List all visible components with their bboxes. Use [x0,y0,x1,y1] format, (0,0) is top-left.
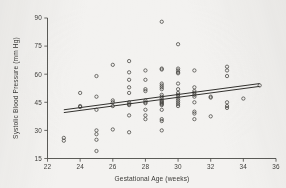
y-tick-label: 75 [34,42,42,49]
data-point [127,78,130,81]
x-tick-label: 22 [44,163,52,170]
data-point [111,63,114,66]
data-point [176,43,179,46]
figure-container: Systolic Blood Pressure (mm Hg) Gestatio… [0,0,286,188]
data-point [95,74,98,77]
data-point [193,69,196,72]
x-tick-label: 26 [109,163,117,170]
data-point [176,82,179,85]
y-axis-title: Systolic Blood Pressure (mm Hg) [12,37,20,139]
x-tick-label: 28 [142,163,150,170]
data-point [160,20,163,23]
y-tick-label: 30 [34,127,42,134]
x-tick-label: 30 [174,163,182,170]
data-point [95,149,98,152]
data-point [127,91,130,94]
data-point [160,108,163,111]
data-point [176,88,179,91]
y-tick-label: 90 [34,14,42,21]
data-point [95,132,98,135]
data-point [242,97,245,100]
y-tick-label: 15 [34,155,42,162]
axes [48,18,277,159]
data-point [225,101,228,104]
data-point [95,138,98,141]
data-point [193,101,196,104]
y-tick-label: 45 [34,99,42,106]
y-tick-group: 153045607590 [34,14,47,162]
x-tick-label: 36 [272,163,280,170]
x-tick-label: 32 [207,163,215,170]
data-point-group [62,20,261,153]
data-point [193,118,196,121]
data-point [225,69,228,72]
x-axis-title: Gestational Age (weeks) [115,175,190,183]
data-point [127,114,130,117]
data-point [127,131,130,134]
data-point [144,114,147,117]
data-point [78,91,81,94]
data-point [144,69,147,72]
data-point [95,129,98,132]
y-tick-label: 60 [34,71,42,78]
lower-fit [64,86,260,112]
x-tick-label: 34 [240,163,248,170]
x-tick-group: 2224262830323436 [44,159,280,171]
data-point [95,95,98,98]
scatter-plot: Systolic Blood Pressure (mm Hg) Gestatio… [0,0,286,188]
data-point [127,71,130,74]
data-point [111,128,114,131]
data-point [144,108,147,111]
data-point [144,118,147,121]
data-point [225,74,228,77]
data-point [127,86,130,89]
data-point [144,78,147,81]
data-point [193,86,196,89]
data-point [225,65,228,68]
data-point [127,59,130,62]
data-point [209,115,212,118]
data-point [160,129,163,132]
x-tick-label: 24 [76,163,84,170]
